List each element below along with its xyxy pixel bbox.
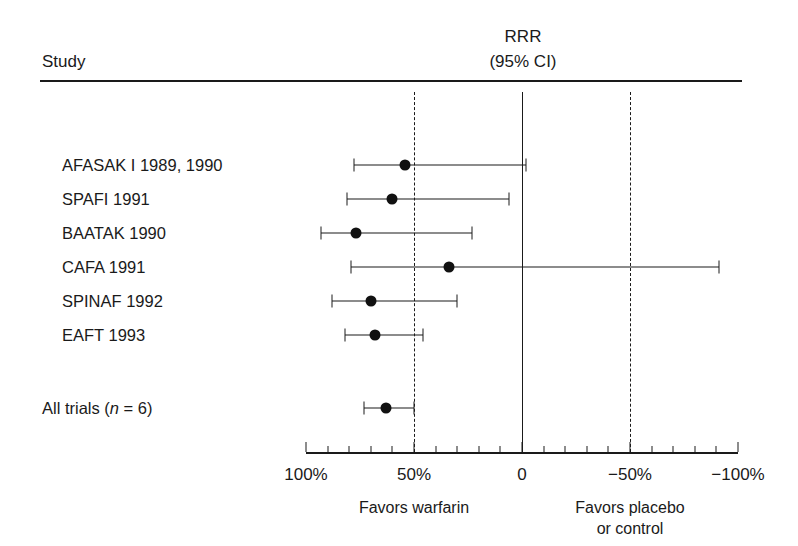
axis-tick-70 [370,446,371,452]
header-divider [40,80,742,82]
axis-tick-100 [306,442,307,452]
reference-line-50 [414,92,415,452]
axis-tick--90 [716,446,717,452]
axis-tick--50 [630,442,631,452]
ci-cap-lower [347,193,348,206]
ci-cap-lower [331,295,332,308]
axis-tick-label: 100% [284,466,327,483]
axis-tick-label: 50% [397,466,431,483]
point-estimate-marker [400,160,411,171]
study-label: SPINAF 1992 [62,293,163,310]
point-estimate-marker [380,403,391,414]
axis-tick--80 [694,446,695,452]
ci-cap-upper [457,295,458,308]
x-axis-line [306,452,738,454]
ci-cap-upper [472,227,473,240]
ci-cap-lower [351,261,352,274]
axis-tick-label: 0 [517,466,526,483]
ci-cap-upper [718,261,719,274]
study-label: SPAFI 1991 [62,191,150,208]
axis-tick--100 [738,442,739,452]
axis-tick--70 [673,446,674,452]
point-estimate-marker [365,296,376,307]
ci-cap-upper [422,329,423,342]
axis-tick-90 [327,446,328,452]
axis-tick--40 [608,446,609,452]
summary-row-label: All trials (n = 6) [42,400,153,417]
axis-tick-50 [414,442,415,452]
ci-cap-lower [364,402,365,415]
chart-subtitle: (95% CI) [489,53,556,70]
reference-line--50 [630,92,631,452]
point-estimate-marker [370,330,381,341]
axis-tick--10 [543,446,544,452]
ci-cap-lower [353,159,354,172]
ci-cap-lower [321,227,322,240]
point-estimate-marker [443,262,454,273]
axis-tick-60 [392,446,393,452]
axis-tick-30 [457,446,458,452]
axis-tick--20 [565,446,566,452]
ci-cap-upper [509,193,510,206]
column-header-study: Study [42,53,85,70]
confidence-interval-line [347,199,509,200]
axis-tick--60 [651,446,652,452]
chart-title: RRR [505,28,542,45]
confidence-interval-line [321,233,472,234]
point-estimate-marker [350,228,361,239]
axis-tick-label: −50% [608,466,652,483]
confidence-interval-line [354,165,527,166]
axis-tick-label: −100% [711,466,764,483]
point-estimate-marker [387,194,398,205]
study-label: CAFA 1991 [62,259,145,276]
caption-favors-warfarin: Favors warfarin [359,497,469,518]
study-label: AFASAK I 1989, 1990 [62,157,223,174]
ci-cap-upper [414,402,415,415]
confidence-interval-line [345,335,423,336]
axis-tick-0 [522,442,523,452]
forest-plot-figure: Study RRR (95% CI) AFASAK I 1989, 1990SP… [0,0,798,546]
axis-tick-80 [349,446,350,452]
reference-line-zero [522,92,523,452]
study-label: EAFT 1993 [62,327,145,344]
ci-cap-lower [344,329,345,342]
ci-cap-upper [526,159,527,172]
confidence-interval-line [332,301,457,302]
axis-tick--30 [586,446,587,452]
study-label: BAATAK 1990 [62,225,166,242]
axis-tick-10 [500,446,501,452]
axis-tick-40 [435,446,436,452]
caption-favors-placebo: Favors placebo or control [575,497,684,539]
confidence-interval-line [351,267,718,268]
axis-tick-20 [478,446,479,452]
